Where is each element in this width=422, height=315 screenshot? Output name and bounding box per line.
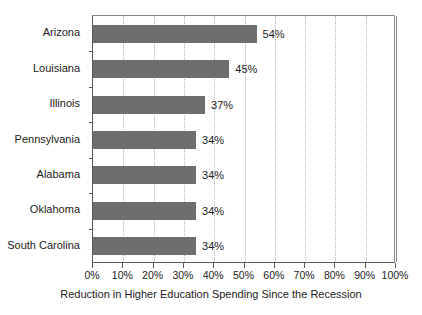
x-axis-tick-label-70: 70% xyxy=(294,269,315,281)
x-axis-tick-label-60: 60% xyxy=(263,269,284,281)
x-axis-tick-labels: 0%10%20%30%40%50%60%70%80%90%100% xyxy=(0,269,422,283)
bar-value-label: 54% xyxy=(263,25,285,43)
bar-value-label: 34% xyxy=(202,237,224,255)
category-label-oklahoma: Oklahoma xyxy=(30,204,80,215)
y-axis-tick xyxy=(89,193,93,194)
plot-area: 54%45%37%34%34%34%34% xyxy=(92,15,395,263)
x-axis-tick-80 xyxy=(334,263,335,268)
x-axis-title: Reduction in Higher Education Spending S… xyxy=(0,288,422,301)
y-axis-tick xyxy=(89,158,93,159)
y-axis-tick xyxy=(89,229,93,230)
x-axis-tick-30 xyxy=(183,263,184,268)
y-axis-category-labels: ArizonaLouisianaIllinoisPennsylvaniaAlab… xyxy=(0,15,86,263)
x-axis-tick-0 xyxy=(92,263,93,268)
gridline-100 xyxy=(396,16,397,262)
y-axis-tick xyxy=(89,51,93,52)
bar-value-label: 34% xyxy=(202,131,224,149)
category-label-louisiana: Louisiana xyxy=(33,63,80,74)
bar-value-label: 45% xyxy=(235,60,257,78)
bar-chart: ArizonaLouisianaIllinoisPennsylvaniaAlab… xyxy=(0,0,422,315)
category-label-arizona: Arizona xyxy=(43,27,80,38)
x-axis-tick-60 xyxy=(274,263,275,268)
bar xyxy=(93,166,196,184)
bar xyxy=(93,202,196,220)
x-axis-tick-label-10: 10% xyxy=(112,269,133,281)
category-label-pennsylvania: Pennsylvania xyxy=(15,134,80,145)
x-axis-ticks xyxy=(92,263,395,268)
y-axis-tick xyxy=(89,87,93,88)
x-axis-tick-100 xyxy=(395,263,396,268)
bar xyxy=(93,96,205,114)
bar xyxy=(93,60,229,78)
category-label-illinois: Illinois xyxy=(49,98,80,109)
x-axis-tick-label-50: 50% xyxy=(233,269,254,281)
bar-value-label: 37% xyxy=(211,96,233,114)
x-axis-tick-40 xyxy=(213,263,214,268)
x-axis-tick-20 xyxy=(153,263,154,268)
bar xyxy=(93,131,196,149)
bar xyxy=(93,237,196,255)
x-axis-tick-label-0: 0% xyxy=(84,269,99,281)
x-axis-tick-label-20: 20% xyxy=(142,269,163,281)
bar-value-label: 34% xyxy=(202,166,224,184)
category-label-south-carolina: South Carolina xyxy=(7,240,80,251)
x-axis-tick-70 xyxy=(304,263,305,268)
bar-value-label: 34% xyxy=(202,202,224,220)
x-axis-tick-label-80: 80% xyxy=(324,269,345,281)
bar-series: 54%45%37%34%34%34%34% xyxy=(93,16,394,262)
y-axis-tick xyxy=(89,122,93,123)
category-label-alabama: Alabama xyxy=(37,169,80,180)
x-axis-tick-label-30: 30% xyxy=(172,269,193,281)
x-axis-tick-label-40: 40% xyxy=(203,269,224,281)
x-axis-tick-50 xyxy=(244,263,245,268)
x-axis-tick-label-90: 90% xyxy=(354,269,375,281)
bar xyxy=(93,25,257,43)
x-axis-tick-10 xyxy=(122,263,123,268)
x-axis-tick-90 xyxy=(365,263,366,268)
x-axis-tick-label-100: 100% xyxy=(382,269,409,281)
